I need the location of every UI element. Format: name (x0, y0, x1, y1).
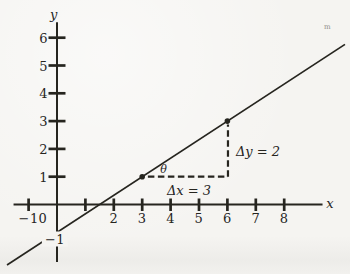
x-tick-label-6: 6 (223, 211, 232, 224)
delta-y-label: Δy = 2 (236, 145, 280, 158)
x-tick-label-3: 3 (138, 211, 147, 224)
stray-print-mark: m (324, 24, 331, 31)
y-tick-label-3: 3 (39, 115, 48, 128)
figure-page: −102345678654321−1xyθΔx = 3Δy = 2m (0, 0, 350, 274)
point-6-3 (225, 118, 231, 124)
point-3-1 (139, 174, 145, 180)
angle-theta-label: θ (160, 163, 167, 174)
delta-x-label: Δx = 3 (167, 184, 211, 197)
y-tick-label-−1: −1 (42, 231, 68, 246)
x-tick-label-8: 8 (280, 211, 289, 224)
y-tick-label-1: 1 (39, 170, 48, 183)
y-tick-label-6: 6 (39, 31, 48, 44)
x-tick-label-−1: −1 (19, 211, 39, 224)
x-tick-label-7: 7 (251, 211, 260, 224)
x-tick-label-2: 2 (109, 211, 118, 224)
x-tick-label-4: 4 (166, 211, 175, 224)
y-axis-letter: y (50, 7, 57, 20)
y-tick-label-2: 2 (39, 142, 48, 155)
y-tick-label-5: 5 (39, 59, 48, 72)
y-tick-label-4: 4 (39, 87, 48, 100)
x-tick-label-0: 0 (38, 211, 47, 224)
x-axis-letter: x (326, 197, 333, 210)
x-tick-label-5: 5 (195, 211, 204, 224)
